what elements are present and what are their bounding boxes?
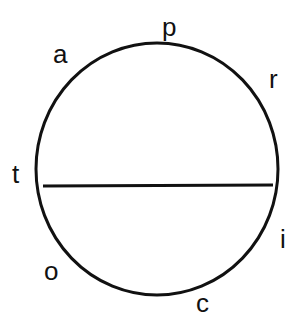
label-r: r (269, 64, 278, 94)
label-a: a (53, 39, 68, 69)
label-p: p (162, 12, 176, 42)
circle-chord-diagram: p a r t i o c (0, 0, 306, 319)
circle-outline (36, 43, 278, 295)
label-c: c (196, 288, 209, 318)
label-i: i (280, 224, 286, 254)
label-t: t (12, 159, 20, 189)
horizontal-chord (43, 185, 273, 186)
label-o: o (44, 256, 58, 286)
